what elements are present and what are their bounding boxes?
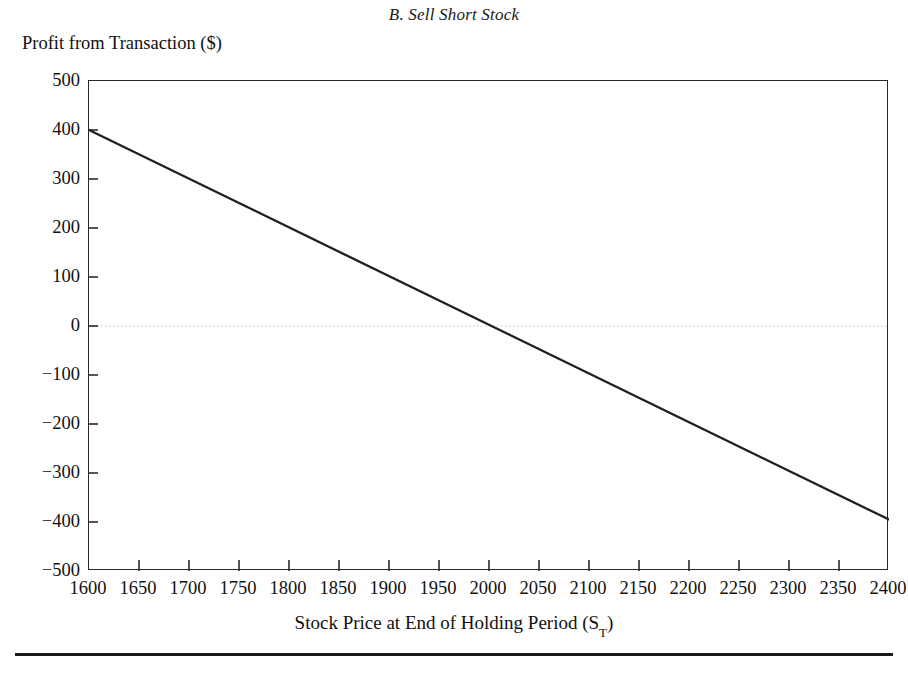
x-axis-tick-labels: 1600165017001750180018501900195020002050… <box>88 578 888 604</box>
y-tick-label: −200 <box>18 414 80 432</box>
y-tick-label: −100 <box>18 365 80 383</box>
plot-svg <box>89 81 889 571</box>
x-axis-title-main: Stock Price at End of Holding Period (S <box>295 612 600 633</box>
plot-area <box>88 80 888 570</box>
x-tick-label: 2400 <box>853 578 908 598</box>
x-axis-ticks <box>139 560 839 571</box>
panel-title: B. Sell Short Stock <box>0 5 908 25</box>
x-axis-title-subscript: T <box>599 625 607 640</box>
y-tick-label: −300 <box>18 463 80 481</box>
y-tick-label: 400 <box>18 120 80 138</box>
y-axis-tick-labels: 5004003002001000−100−200−300−400−500 <box>10 80 80 570</box>
y-tick-label: 300 <box>18 169 80 187</box>
y-tick-label: 0 <box>18 316 80 334</box>
x-axis-title: Stock Price at End of Holding Period (ST… <box>0 612 908 638</box>
bottom-rule <box>15 653 893 656</box>
y-axis-ticks <box>89 130 98 522</box>
y-axis-title: Profit from Transaction ($) <box>22 33 222 54</box>
x-axis-title-close: ) <box>607 612 613 633</box>
profit-line-series <box>89 130 889 520</box>
y-tick-label: 200 <box>18 218 80 236</box>
y-tick-label: −400 <box>18 512 80 530</box>
y-tick-label: 500 <box>18 71 80 89</box>
y-tick-label: 100 <box>18 267 80 285</box>
y-tick-label: −500 <box>18 561 80 579</box>
